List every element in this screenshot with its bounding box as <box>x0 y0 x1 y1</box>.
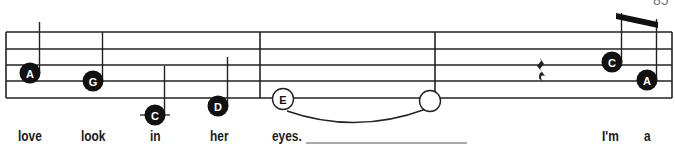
note-label: E <box>279 94 286 106</box>
lyric-word: look <box>81 128 105 144</box>
note-label: C <box>608 57 616 69</box>
note-e: E <box>273 89 294 110</box>
notes: AGCDECA <box>20 13 658 126</box>
note-label: A <box>643 75 651 87</box>
quarter-rest-icon <box>537 58 545 81</box>
lyric-word: eyes. <box>272 128 302 144</box>
lyric-word: her <box>210 128 229 144</box>
tie-curve <box>287 109 426 123</box>
lyric-word: I'm <box>602 128 619 144</box>
note-c: C <box>140 66 170 126</box>
staff-lines <box>6 32 672 98</box>
note-a: A <box>637 19 658 91</box>
note-open <box>420 91 441 112</box>
lyric-word: love <box>18 128 42 144</box>
note-g: G <box>83 32 104 92</box>
note-label: D <box>214 101 222 113</box>
beam <box>616 13 658 28</box>
tie-curve <box>287 109 426 123</box>
note-d: D <box>208 57 229 117</box>
note-label: G <box>89 76 98 88</box>
lyric-word: a <box>644 128 651 144</box>
lyric-word: in <box>150 128 161 144</box>
page-number: 85 <box>653 0 669 8</box>
note-c: C <box>602 13 623 73</box>
note-label: A <box>26 68 34 80</box>
eighth-note-beam <box>616 13 658 28</box>
note-a: A <box>20 22 41 84</box>
quarter-rest-icon <box>537 58 545 81</box>
note-label: C <box>151 110 159 122</box>
